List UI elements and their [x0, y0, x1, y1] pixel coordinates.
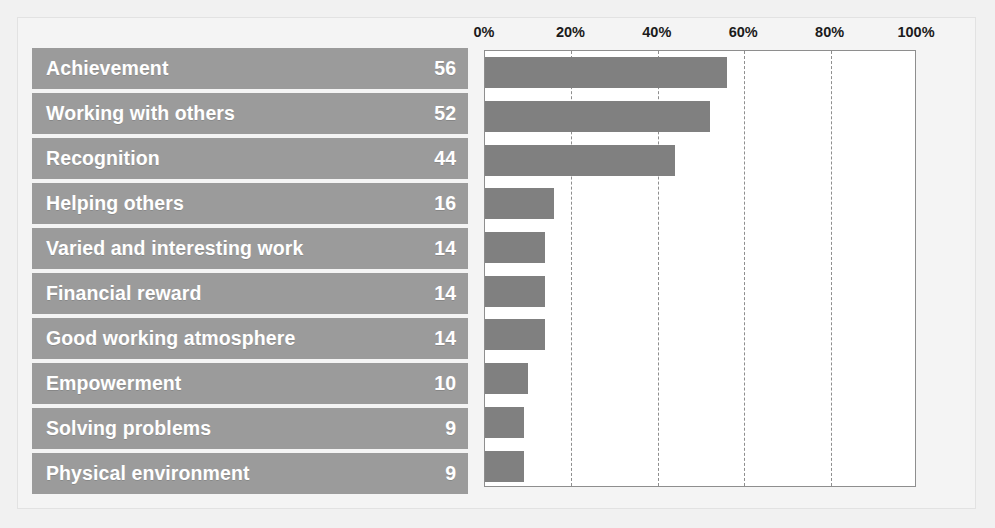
- bar: [485, 232, 545, 263]
- category-label-text: Solving problems: [46, 417, 430, 440]
- category-label-row: Solving problems9: [32, 408, 468, 449]
- x-axis-tick-label: 0%: [474, 24, 495, 40]
- category-label-text: Varied and interesting work: [46, 237, 430, 260]
- category-label-text: Good working atmosphere: [46, 327, 430, 350]
- category-value-text: 10: [430, 372, 456, 395]
- x-axis-tick-label: 40%: [642, 24, 671, 40]
- category-label-row: Physical environment9: [32, 453, 468, 494]
- x-axis-tick-label: 20%: [556, 24, 585, 40]
- x-axis-tick-labels: 0%20%40%60%80%100%: [484, 24, 916, 46]
- category-label-row: Helping others16: [32, 183, 468, 224]
- category-label-text: Financial reward: [46, 282, 430, 305]
- bar-slot: [485, 357, 915, 401]
- x-axis-tick-label: 100%: [897, 24, 934, 40]
- category-label-text: Recognition: [46, 147, 430, 170]
- bar-slot: [485, 444, 915, 488]
- x-axis-tick-label: 80%: [815, 24, 844, 40]
- bar-slot: [485, 401, 915, 445]
- bar: [485, 145, 675, 176]
- bar-slot: [485, 313, 915, 357]
- x-axis-tick-label: 60%: [729, 24, 758, 40]
- category-value-text: 16: [430, 192, 456, 215]
- category-value-text: 14: [430, 237, 456, 260]
- category-label-row: Recognition44: [32, 138, 468, 179]
- category-value-text: 14: [430, 327, 456, 350]
- category-label-row: Good working atmosphere14: [32, 318, 468, 359]
- plot-area: [484, 50, 916, 487]
- bar-slot: [485, 51, 915, 95]
- category-label-text: Achievement: [46, 57, 430, 80]
- bar: [485, 188, 554, 219]
- bar: [485, 319, 545, 350]
- category-label-text: Empowerment: [46, 372, 430, 395]
- category-value-text: 56: [430, 57, 456, 80]
- bar: [485, 407, 524, 438]
- category-value-text: 9: [430, 462, 456, 485]
- bar-slot: [485, 226, 915, 270]
- category-label-row: Financial reward14: [32, 273, 468, 314]
- bar: [485, 363, 528, 394]
- bar-slot: [485, 138, 915, 182]
- category-value-text: 44: [430, 147, 456, 170]
- bar-slot: [485, 95, 915, 139]
- bar-slot: [485, 269, 915, 313]
- category-label-row: Working with others52: [32, 93, 468, 134]
- category-value-text: 9: [430, 417, 456, 440]
- bar: [485, 451, 524, 482]
- category-label-text: Helping others: [46, 192, 430, 215]
- category-label-column: Achievement56Working with others52Recogn…: [32, 48, 468, 494]
- category-value-text: 14: [430, 282, 456, 305]
- category-label-row: Empowerment10: [32, 363, 468, 404]
- category-label-text: Working with others: [46, 102, 430, 125]
- bar-series: [485, 51, 915, 486]
- bar: [485, 276, 545, 307]
- category-label-row: Varied and interesting work14: [32, 228, 468, 269]
- category-value-text: 52: [430, 102, 456, 125]
- category-label-text: Physical environment: [46, 462, 430, 485]
- category-label-row: Achievement56: [32, 48, 468, 89]
- bar: [485, 57, 727, 88]
- chart-figure: Achievement56Working with others52Recogn…: [0, 0, 995, 528]
- bar-slot: [485, 182, 915, 226]
- bar: [485, 101, 710, 132]
